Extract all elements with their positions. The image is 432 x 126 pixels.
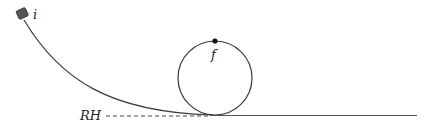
- initial-point-label: i: [33, 7, 37, 22]
- loop-diagram: i f RH: [0, 0, 432, 126]
- reference-height-label: RH: [79, 108, 102, 123]
- final-point-label: f: [210, 47, 218, 62]
- final-point-dot: [212, 38, 217, 43]
- cart-icon: [16, 7, 29, 19]
- track-ramp: [24, 20, 212, 115]
